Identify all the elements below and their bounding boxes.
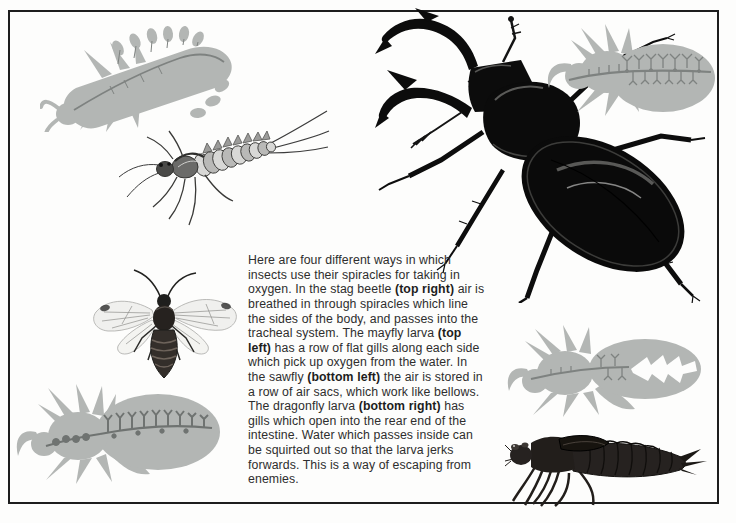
sawfly-icon <box>90 268 248 393</box>
description-paragraph: Here are four different ways in which in… <box>248 253 486 487</box>
dragonfly-larva-gill-silhouette-icon <box>505 325 705 417</box>
dragonfly-larva-icon <box>505 427 710 507</box>
stag-beetle-trachea-silhouette-icon <box>543 20 719 123</box>
desc-bold-bottom-left: (bottom left) <box>307 370 380 384</box>
desc-bold-bottom-right: (bottom right) <box>359 399 441 413</box>
mayfly-larva-icon <box>115 105 330 235</box>
desc-bold-top-right: (top right) <box>395 282 454 296</box>
book-page: Here are four different ways in which in… <box>0 0 736 523</box>
sawfly-air-sacs-silhouette-icon <box>16 382 226 487</box>
